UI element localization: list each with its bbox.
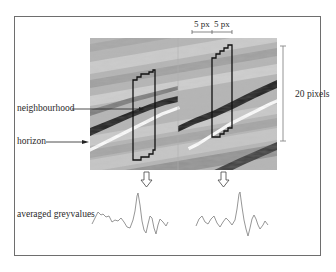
arrow-down-left-icon — [141, 172, 152, 187]
diagram-canvas — [0, 0, 336, 272]
waveform-left — [92, 193, 168, 234]
seismic-image — [90, 12, 277, 188]
neighbourhood-label: neighbourhood — [17, 103, 75, 113]
averaged-greyvalues-label: averaged greyvalues — [17, 209, 95, 219]
scale-right-label: 5 px — [214, 19, 230, 29]
scale-left-label: 5 px — [194, 19, 210, 29]
vertical-scale-label: 20 pixels — [295, 89, 330, 99]
horizon-label: horizon — [17, 136, 46, 146]
vertical-scale-bar — [280, 46, 286, 141]
horizontal-scale-bar — [192, 30, 232, 34]
arrow-down-right-icon — [218, 172, 229, 187]
waveform-right — [196, 192, 268, 236]
horizon-pointer — [46, 140, 89, 144]
